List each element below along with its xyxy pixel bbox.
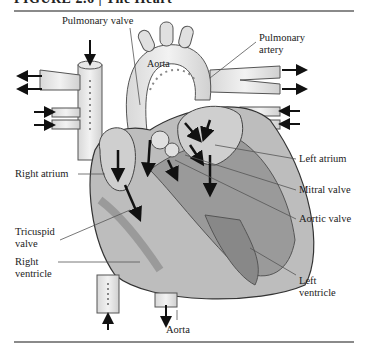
superior-vena-cava [78, 40, 102, 160]
label-pulmonary-artery-2: artery [259, 44, 283, 56]
label-pulmonary-artery-1: Pulmonary [259, 32, 305, 44]
label-tricuspid-valve-2: valve [15, 238, 38, 250]
label-aorta-bottom: Aorta [166, 324, 190, 336]
label-mitral-valve: Mitral valve [299, 184, 351, 196]
descending-aorta [155, 293, 177, 322]
label-right-atrium: Right atrium [15, 168, 68, 180]
label-pulmonary-valve: Pulmonary valve [62, 15, 133, 27]
label-left-atrium: Left atrium [299, 153, 347, 165]
label-left-ventricle-2: ventricle [299, 287, 336, 299]
label-tricuspid-valve-1: Tricuspid [15, 226, 55, 238]
label-right-ventricle-2: ventricle [15, 268, 52, 280]
label-aortic-valve: Aortic valve [299, 213, 351, 225]
label-right-ventricle-1: Right [15, 256, 38, 268]
label-aorta-top: Aorta [147, 58, 170, 70]
label-left-ventricle-1: Left [299, 275, 317, 287]
inferior-vena-cava [97, 275, 119, 330]
left-side-vessels [22, 70, 80, 129]
